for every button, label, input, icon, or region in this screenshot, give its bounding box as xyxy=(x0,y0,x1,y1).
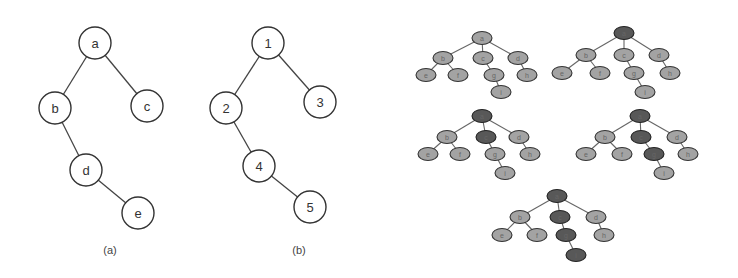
node-label: g xyxy=(632,70,636,78)
unvisited-node: f xyxy=(590,67,610,80)
node-label: h xyxy=(528,151,532,158)
node-label: e xyxy=(560,70,564,77)
node-label: 5 xyxy=(306,200,313,215)
visited-node: a xyxy=(547,190,567,203)
tree-node: b xyxy=(39,92,71,124)
tree-node: c xyxy=(131,90,163,122)
unvisited-node: e xyxy=(416,69,436,82)
unvisited-node: h xyxy=(660,67,680,80)
node-label: c xyxy=(484,134,488,141)
unvisited-node: i xyxy=(635,86,655,99)
node-label: b xyxy=(584,52,588,59)
node-label: e xyxy=(500,232,504,239)
node-label: f xyxy=(621,151,623,158)
node-label: h xyxy=(525,72,529,79)
node-label: f xyxy=(599,70,601,77)
unvisited-node: f xyxy=(450,148,470,161)
node-label: g xyxy=(493,151,497,159)
unvisited-node: e xyxy=(576,148,596,161)
node-label: b xyxy=(441,55,445,62)
traversal-steps-trees: abcdefghiabcdefghiabcdefghiabcdefghiabcd… xyxy=(416,27,698,262)
node-label: c xyxy=(144,99,151,114)
visited-node: g xyxy=(644,148,664,161)
panel-caption: (b) xyxy=(292,244,305,256)
unvisited-node: g xyxy=(484,69,504,82)
visited-node: a xyxy=(630,110,650,123)
node-label: a xyxy=(555,193,559,200)
unvisited-node: b xyxy=(510,211,530,224)
node-label: h xyxy=(668,70,672,77)
traversal-step-4: abcdefghi xyxy=(576,110,698,180)
unvisited-node: c xyxy=(614,49,634,62)
node-label: a xyxy=(638,113,642,120)
node-label: e xyxy=(426,151,430,158)
node-label: a xyxy=(480,35,484,42)
unvisited-node: i xyxy=(495,167,515,180)
node-label: 1 xyxy=(264,36,271,51)
unvisited-node: b xyxy=(595,131,615,144)
node-label: f xyxy=(457,72,459,79)
unvisited-node: i xyxy=(491,86,511,99)
unvisited-node: e xyxy=(552,67,572,80)
tree-node: d xyxy=(70,154,102,186)
node-label: e xyxy=(424,72,428,79)
tree-panel-b: 12345(b) xyxy=(210,27,336,256)
unvisited-node: h xyxy=(517,69,537,82)
node-label: d xyxy=(516,55,520,62)
traversal-step-2: abcdefghi xyxy=(552,27,680,99)
node-label: 3 xyxy=(316,95,323,110)
node-label: f xyxy=(459,151,461,158)
node-label: g xyxy=(652,151,656,159)
panel-caption: (a) xyxy=(103,244,116,256)
unvisited-node: c xyxy=(473,52,493,65)
node-label: e xyxy=(134,206,141,221)
node-label: d xyxy=(657,52,661,59)
node-label: g xyxy=(492,72,496,80)
node-label: f xyxy=(536,232,538,239)
unvisited-node: h xyxy=(520,148,540,161)
node-label: b xyxy=(445,134,449,141)
node-label: c xyxy=(558,214,562,221)
node-label: c xyxy=(622,52,626,59)
visited-node: a xyxy=(472,110,492,123)
unvisited-node: f xyxy=(448,69,468,82)
node-label: a xyxy=(480,113,484,120)
node-label: h xyxy=(686,151,690,158)
node-label: d xyxy=(594,214,598,221)
node-label: b xyxy=(518,214,522,221)
node-label: h xyxy=(602,232,606,239)
tree-node: 2 xyxy=(210,92,242,124)
node-label: c xyxy=(481,55,485,62)
unvisited-node: h xyxy=(678,148,698,161)
node-label: a xyxy=(91,36,99,51)
unvisited-node: d xyxy=(586,211,606,224)
unvisited-node: g xyxy=(624,67,644,80)
node-label: c xyxy=(639,134,643,141)
visited-node: a xyxy=(614,27,634,40)
visited-node: g xyxy=(556,229,576,242)
node-label: 2 xyxy=(222,101,229,116)
unvisited-node: f xyxy=(612,148,632,161)
node-label: 4 xyxy=(255,159,262,174)
unvisited-node: a xyxy=(472,32,492,45)
node-label: b xyxy=(603,134,607,141)
unvisited-node: d xyxy=(649,49,669,62)
tree-diagram-figure: abcde(a)12345(b) abcdefghiabcdefghiabcde… xyxy=(0,0,738,278)
node-label: d xyxy=(675,134,679,141)
unvisited-node: d xyxy=(509,131,529,144)
unvisited-node: g xyxy=(485,148,505,161)
node-label: g xyxy=(564,232,568,240)
binary-trees-panels: abcde(a)12345(b) xyxy=(39,27,336,256)
tree-node: 4 xyxy=(243,150,275,182)
unvisited-node: e xyxy=(492,229,512,242)
visited-node: c xyxy=(476,131,496,144)
traversal-step-3: abcdefghi xyxy=(418,110,540,180)
unvisited-node: f xyxy=(527,229,547,242)
node-label: d xyxy=(82,163,89,178)
node-label: a xyxy=(622,30,626,37)
node-label: b xyxy=(51,101,58,116)
node-label: e xyxy=(584,151,588,158)
visited-node: i xyxy=(566,249,586,262)
visited-node: c xyxy=(631,131,651,144)
tree-node: a xyxy=(79,27,111,59)
